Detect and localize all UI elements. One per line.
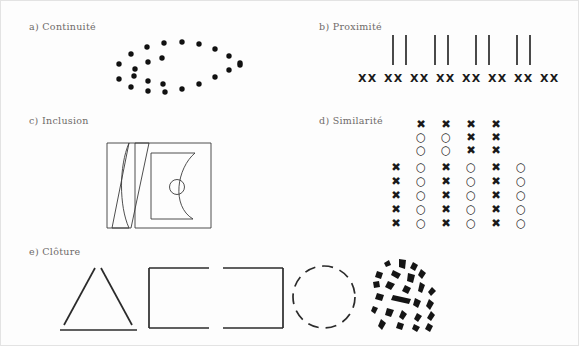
- left-slab: [107, 143, 129, 228]
- glyph-cell: ○: [515, 218, 527, 230]
- glyph-cell: ✖: [440, 204, 452, 216]
- glyph-cell: ✖: [390, 176, 402, 188]
- glyph-cell: ✖: [465, 119, 477, 131]
- continuite-dot-figure: [1, 1, 291, 106]
- glyph-cell: ✖: [440, 218, 452, 230]
- glyph-cell: ○: [515, 176, 527, 188]
- x-pair: XX: [436, 73, 455, 84]
- bowtie-shape: [112, 143, 149, 228]
- glyph-cell: ✖: [465, 145, 477, 157]
- glyph-cell: ○: [415, 176, 427, 188]
- glyph-cell: ○: [415, 132, 427, 144]
- glyph-cell: ✖: [390, 218, 402, 230]
- glyph-cell: ○: [515, 204, 527, 216]
- glyph-cell: ○: [465, 218, 477, 230]
- glyph-cell: ○: [415, 204, 427, 216]
- glyph-cell: ✖: [440, 190, 452, 202]
- vertical-line-pairs: [393, 35, 530, 65]
- glyph-cell: ○: [515, 162, 527, 174]
- glyph-cell: ✖: [415, 119, 427, 131]
- glyph-cell: ○: [415, 218, 427, 230]
- glyph-cell: ✖: [490, 176, 502, 188]
- glyph-cell: ✖: [490, 145, 502, 157]
- x-pair: XX: [540, 73, 559, 84]
- glyph-cell: ✖: [440, 119, 452, 131]
- glyph-cell: ✖: [490, 119, 502, 131]
- dot-group-inner-crossing: [131, 55, 165, 86]
- glyph-cell: ○: [465, 204, 477, 216]
- dot-group-upper-arc: [116, 39, 242, 67]
- gapped-triangle: [60, 268, 137, 330]
- x-pair: XX: [384, 73, 403, 84]
- glyph-cell: ✖: [390, 162, 402, 174]
- square-open-left: [223, 268, 283, 328]
- glyph-cell: ✖: [440, 162, 452, 174]
- x-pair: XX: [462, 73, 481, 84]
- dashed-circle: [293, 266, 355, 328]
- glyph-cell: ○: [465, 162, 477, 174]
- glyph-cell: ○: [440, 132, 452, 144]
- glyph-cell: ○: [440, 145, 452, 157]
- proximite-figure: [291, 1, 579, 106]
- glyph-cell: ✖: [490, 162, 502, 174]
- inclusion-figure: [1, 106, 291, 241]
- small-circle: [170, 180, 185, 195]
- fragmented-blobs: [371, 259, 436, 332]
- cloture-figure: [1, 251, 579, 346]
- glyph-cell: ○: [465, 176, 477, 188]
- x-pair: XX: [488, 73, 507, 84]
- glyph-cell: ✖: [390, 204, 402, 216]
- glyph-cell: ✖: [440, 176, 452, 188]
- glyph-cell: ○: [465, 190, 477, 202]
- glyph-cell: ○: [415, 162, 427, 174]
- glyph-cell: ○: [415, 145, 427, 157]
- panel-d-label: d) Similarité: [319, 115, 383, 126]
- x-pair: XX: [410, 73, 429, 84]
- glyph-cell: ✖: [390, 190, 402, 202]
- x-pair: XX: [514, 73, 533, 84]
- x-pair: XX: [358, 73, 377, 84]
- glyph-cell: ✖: [465, 132, 477, 144]
- square-open-right: [149, 268, 209, 328]
- glyph-cell: ✖: [490, 204, 502, 216]
- glyph-cell: ✖: [490, 190, 502, 202]
- gestalt-principles-figure: a) Continuité: [0, 0, 579, 346]
- glyph-cell: ✖: [490, 132, 502, 144]
- glyph-cell: ○: [515, 190, 527, 202]
- glyph-cell: ○: [415, 190, 427, 202]
- glyph-cell: ✖: [490, 218, 502, 230]
- inner-d-shape: [151, 153, 195, 219]
